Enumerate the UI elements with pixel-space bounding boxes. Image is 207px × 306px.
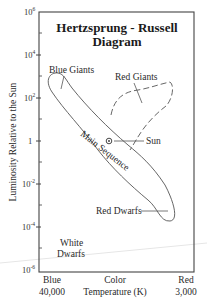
sun-icon <box>106 138 112 144</box>
plot-frame <box>39 12 194 272</box>
label-red-giants: Red Giants <box>115 72 158 82</box>
hr-diagram: 106 104 102 1 10-2 10-4 10-6 Luminosity … <box>0 0 207 306</box>
x-axis-label-line2: Temperature (K) <box>83 287 146 298</box>
y-tick-1e-6: 10-6 <box>22 264 35 275</box>
x-value-40000: 40,000 <box>39 287 65 297</box>
x-label-blue: Blue <box>43 275 61 285</box>
label-red-dwarfs: Red Dwarfs <box>96 206 142 216</box>
label-white-dwarfs-line1: White <box>60 238 83 248</box>
y-axis-label: Luminosity Relative to the Sun <box>8 82 18 201</box>
label-white-dwarfs-line2: Dwarfs <box>57 249 85 259</box>
main-sequence-band <box>48 73 174 221</box>
x-value-3000: 3,000 <box>175 287 197 297</box>
scan-artifact-line <box>0 243 207 263</box>
y-tick-1: 1 <box>28 136 32 146</box>
label-main-sequence: Main Sequence <box>79 129 132 173</box>
diagram-title-line2: Diagram <box>92 34 141 49</box>
y-tick-1e4: 104 <box>24 49 36 60</box>
x-label-red: Red <box>178 275 194 285</box>
x-axis-label-line1: Color <box>104 275 126 285</box>
diagram-title-line1: Hertzsprung - Russell <box>56 20 178 35</box>
y-tick-1e-2: 10-2 <box>22 178 35 189</box>
y-tick-1e-4: 10-4 <box>22 221 35 232</box>
y-tick-1e6: 106 <box>24 6 36 17</box>
y-tick-1e2: 102 <box>24 92 36 103</box>
red-giants-region <box>111 82 173 150</box>
label-blue-giants: Blue Giants <box>49 65 94 75</box>
label-sun: Sun <box>146 136 161 146</box>
red-giants-leader <box>134 83 142 103</box>
y-axis-tick-labels: 106 104 102 1 10-2 10-4 10-6 <box>22 6 36 275</box>
blue-giants-leader <box>61 76 64 89</box>
